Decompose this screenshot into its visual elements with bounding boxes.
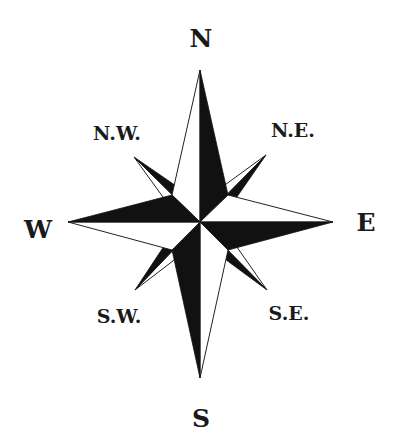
arm-w xyxy=(68,195,200,250)
label-northwest: N.W. xyxy=(93,122,141,144)
label-north: N xyxy=(190,24,213,53)
label-southwest: S.W. xyxy=(97,305,142,327)
label-southeast: S.E. xyxy=(269,302,310,324)
compass-rose: N E S W N.E. N.W. S.E. S.W. xyxy=(0,0,395,445)
label-east: E xyxy=(356,208,375,237)
arm-s-light-half xyxy=(200,222,228,378)
label-south: S xyxy=(192,404,210,433)
arm-s xyxy=(172,222,228,378)
arm-n xyxy=(172,70,228,222)
label-west: W xyxy=(23,215,53,244)
label-northeast: N.E. xyxy=(271,119,315,141)
